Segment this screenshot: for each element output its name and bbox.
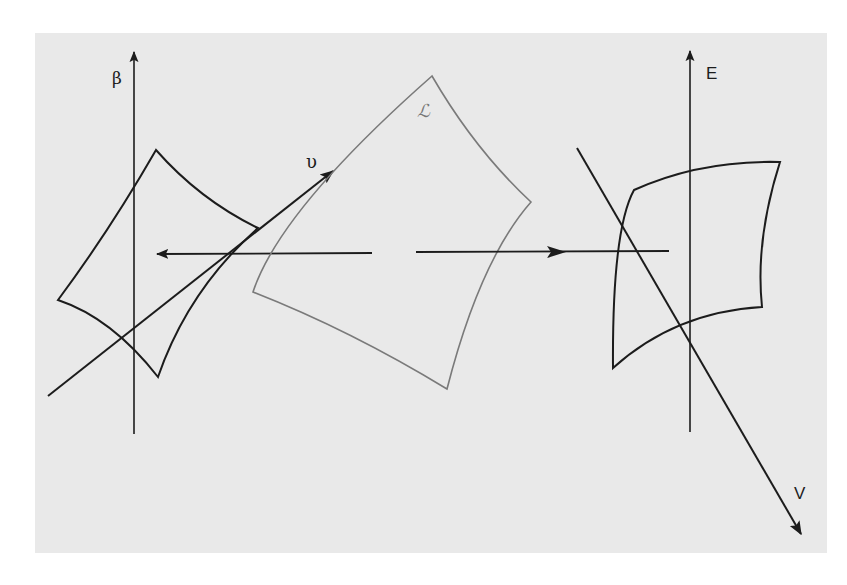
energy-axis-label: E: [706, 64, 717, 83]
center-manifold: ℒ: [253, 76, 531, 389]
left-cusp-region: [58, 150, 258, 377]
lagrangian-manifold: [253, 76, 531, 389]
left-map-arrow: [157, 253, 372, 254]
upsilon-label: υ: [306, 151, 317, 172]
left-panel: β υ: [48, 52, 372, 434]
v-label: V: [794, 484, 806, 503]
right-region: [613, 162, 780, 368]
beta-axis-label: β: [112, 68, 122, 88]
manifold-label: ℒ: [417, 100, 431, 121]
upsilon-vector: [48, 171, 333, 396]
phase-diagram: β υ ℒ E V: [0, 0, 847, 585]
right-panel: E V: [577, 51, 806, 534]
right-map-arrow: [416, 251, 669, 252]
